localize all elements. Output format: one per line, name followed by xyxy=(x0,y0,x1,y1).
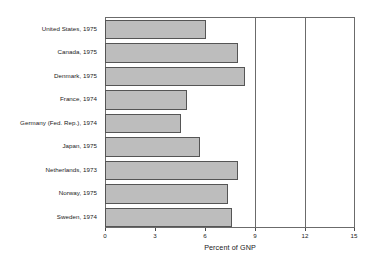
x-axis-title: Percent of GNP xyxy=(105,243,355,252)
plot-area xyxy=(105,17,355,228)
x-axis-tick-label-0: 0 xyxy=(103,232,106,239)
y-axis-label-france: France, 1974 xyxy=(60,87,97,110)
y-axis-category-labels: United States, 1975 Canada, 1975 Denmark… xyxy=(0,17,101,228)
bar-netherlands xyxy=(105,161,238,180)
y-axis-label-japan: Japan, 1975 xyxy=(62,134,97,157)
y-axis-label-norway: Norway, 1975 xyxy=(59,181,97,204)
y-axis-label-canada: Canada, 1975 xyxy=(58,40,97,63)
bar-denmark xyxy=(105,67,245,86)
bar-germany xyxy=(105,114,181,133)
bars-layer xyxy=(106,18,354,227)
y-axis-label-united-states: United States, 1975 xyxy=(42,17,97,40)
bar-canada xyxy=(105,43,238,62)
x-axis-tick-label-15: 15 xyxy=(351,232,358,239)
bar-sweden xyxy=(105,208,232,227)
bar-japan xyxy=(105,137,200,156)
bar-france xyxy=(105,90,187,109)
tick-mark-15 xyxy=(354,228,355,231)
tick-mark-0 xyxy=(105,228,106,231)
x-axis-tick-label-3: 3 xyxy=(153,232,156,239)
tick-mark-6 xyxy=(205,228,206,231)
y-axis-label-denmark: Denmark, 1975 xyxy=(54,64,97,87)
bar-chart: United States, 1975 Canada, 1975 Denmark… xyxy=(0,0,376,266)
y-axis-label-netherlands: Netherlands, 1973 xyxy=(46,158,97,181)
x-axis-tick-label-9: 9 xyxy=(253,232,256,239)
y-axis-label-germany: Germany (Fed. Rep.), 1974 xyxy=(20,111,97,134)
y-axis-label-sweden: Sweden, 1974 xyxy=(57,205,97,228)
tick-mark-12 xyxy=(305,228,306,231)
bar-united-states xyxy=(105,20,206,39)
tick-mark-9 xyxy=(255,228,256,231)
x-axis-tick-label-6: 6 xyxy=(203,232,206,239)
tick-mark-3 xyxy=(155,228,156,231)
x-axis-tick-label-12: 12 xyxy=(302,232,309,239)
bar-norway xyxy=(105,184,228,203)
